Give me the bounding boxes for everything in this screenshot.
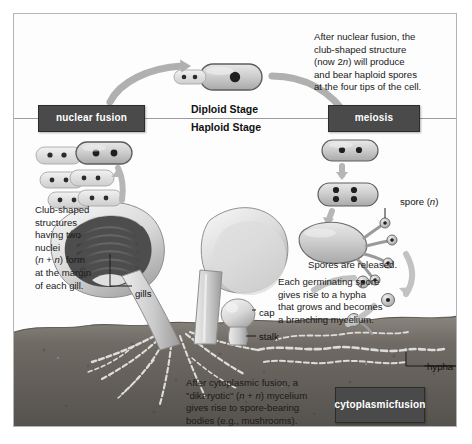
box-meiosis: meiosis	[328, 105, 420, 132]
label-stalk: stalk	[259, 331, 279, 342]
caption-club-shaped: Club-shaped structures having two nuclei…	[35, 204, 115, 292]
label-gills: gills	[135, 288, 152, 299]
box-cytoplasmic-fusion-line1: cytoplasmic	[334, 399, 394, 412]
label-haploid-stage: Haploid Stage	[191, 121, 261, 133]
label-cap: cap	[259, 307, 274, 318]
meiosis-cells	[318, 140, 378, 226]
figure-frame: Diploid Stage Haploid Stage nuclear fusi…	[13, 13, 457, 427]
basidium-with-spores	[299, 208, 397, 285]
figure-root: Diploid Stage Haploid Stage nuclear fusi…	[0, 0, 472, 444]
box-cytoplasmic-fusion: cytoplasmic fusion	[335, 387, 425, 423]
box-cytoplasmic-fusion-line2: fusion	[394, 399, 425, 412]
caption-germinating-spore: Each germinating spore gives rise to a h…	[278, 276, 438, 326]
label-hypha: hypha	[427, 361, 453, 372]
label-spore: spore (n)	[400, 196, 438, 207]
club-cells-left	[36, 142, 132, 208]
caption-cytoplasmic-fusion: After cytoplasmic fusion, a "dikaryotic"…	[186, 377, 338, 427]
box-nuclear-fusion: nuclear fusion	[38, 105, 145, 132]
caption-nuclear-fusion: After nuclear fusion, the club-shaped st…	[314, 31, 457, 94]
caption-spores-released: Spores are released.	[308, 259, 448, 272]
label-diploid-stage: Diploid Stage	[191, 103, 258, 115]
